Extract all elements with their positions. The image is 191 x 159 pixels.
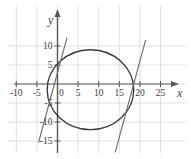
x-tick-label: 0 bbox=[59, 88, 64, 98]
y-tick-label: -10 bbox=[40, 117, 53, 127]
y-tick-label: 10 bbox=[43, 41, 53, 51]
coordinate-plane-figure: -10-50510152025 105-5-10-15 x y bbox=[0, 0, 191, 159]
x-tick-label: 15 bbox=[115, 88, 125, 98]
y-tick-label: -5 bbox=[45, 98, 53, 108]
x-tick-label: -10 bbox=[10, 88, 23, 98]
x-tick-label: -5 bbox=[33, 88, 41, 98]
y-axis-label: y bbox=[47, 13, 54, 27]
x-axis-label: x bbox=[176, 86, 183, 100]
figure-background bbox=[0, 0, 191, 159]
x-tick-label: 20 bbox=[135, 88, 145, 98]
y-tick-label: 5 bbox=[48, 60, 53, 70]
x-tick-label: 10 bbox=[94, 88, 104, 98]
y-tick-label: -15 bbox=[40, 136, 53, 146]
x-tick-label: 25 bbox=[156, 88, 166, 98]
x-tick-label: 5 bbox=[76, 88, 81, 98]
